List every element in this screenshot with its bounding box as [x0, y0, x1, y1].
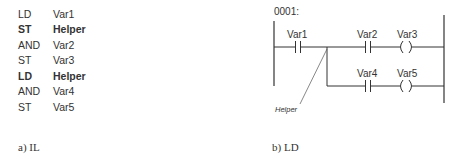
contact-label: Var1 [287, 29, 308, 40]
coil-var5-icon [401, 80, 404, 92]
network-label: 0001: [274, 6, 299, 17]
rung-2: Var4 Var5 [327, 68, 444, 92]
rung-1: Var1 Var2 Var3 [274, 29, 444, 53]
ladder-diagram: 0001: Var1 Var2 Var3 Var4 Var5 Helper [0, 0, 462, 162]
contact-label: Var2 [357, 29, 378, 40]
coil-label: Var3 [397, 29, 418, 40]
helper-label: Helper [275, 105, 298, 114]
contact-label: Var4 [357, 68, 378, 79]
coil-label: Var5 [397, 68, 418, 79]
helper-pointer [300, 49, 327, 104]
coil-var3-icon [401, 41, 404, 53]
